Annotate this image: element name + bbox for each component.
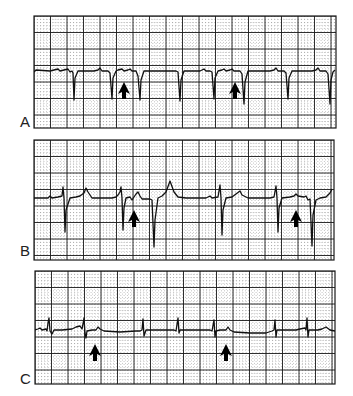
- ecg-panel-b: [34, 140, 334, 260]
- arrow-up-icon: [220, 344, 232, 361]
- grid-paper: [35, 271, 335, 384]
- ecg-panel-a: [34, 16, 336, 128]
- ecg-figure: [0, 0, 353, 396]
- ecg-panel-c: [35, 271, 335, 384]
- panel-label-a: A: [20, 114, 30, 129]
- ecg-trace: [35, 318, 335, 338]
- panel-border: [35, 271, 335, 384]
- grid-paper: [34, 140, 334, 260]
- arrow-up-icon: [290, 210, 302, 227]
- panel-border: [34, 140, 334, 260]
- panel-label-c: C: [20, 371, 31, 386]
- arrow-up-icon: [229, 82, 241, 99]
- grid-paper: [34, 16, 336, 128]
- ecg-trace: [34, 181, 332, 247]
- arrow-up-icon: [89, 344, 101, 361]
- arrow-up-icon: [118, 82, 130, 99]
- panel-label-b: B: [20, 243, 30, 258]
